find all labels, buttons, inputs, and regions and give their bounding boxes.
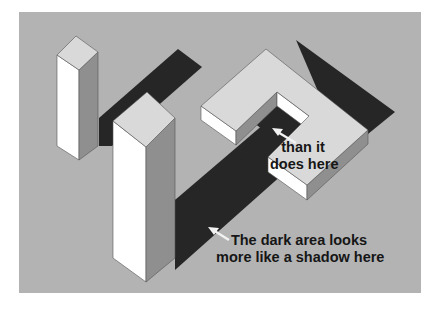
- front-pillar: [113, 92, 175, 282]
- annotation-lower-line2: more like a shadow here: [216, 249, 382, 266]
- annotation-lower-line1: The dark area looks: [216, 232, 382, 249]
- left-pillar-left-face: [57, 55, 79, 160]
- annotation-upper: than it does here: [270, 139, 336, 173]
- annotation-lower: The dark area looks more like a shadow h…: [216, 232, 382, 266]
- annotation-upper-line2: does here: [270, 156, 336, 173]
- annotation-upper-line1: than it: [270, 139, 336, 156]
- front-pillar-left-face: [113, 121, 146, 282]
- left-pillar: [57, 36, 98, 160]
- left-pillar-right-face: [79, 52, 98, 160]
